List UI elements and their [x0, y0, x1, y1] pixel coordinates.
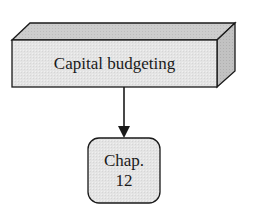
box-top-face	[12, 23, 235, 40]
capital-budgeting-text: Capital budgeting	[54, 54, 175, 74]
diagram-canvas: Capital budgeting Chap. 12	[0, 0, 254, 216]
chapter-text-line1: Chap.	[104, 151, 144, 171]
chapter-text-line2: 12	[116, 171, 133, 191]
arrowhead-icon	[118, 126, 130, 138]
chapter-label: Chap. 12	[88, 138, 160, 203]
arrow-connector	[118, 87, 130, 138]
capital-budgeting-label: Capital budgeting	[12, 40, 217, 87]
